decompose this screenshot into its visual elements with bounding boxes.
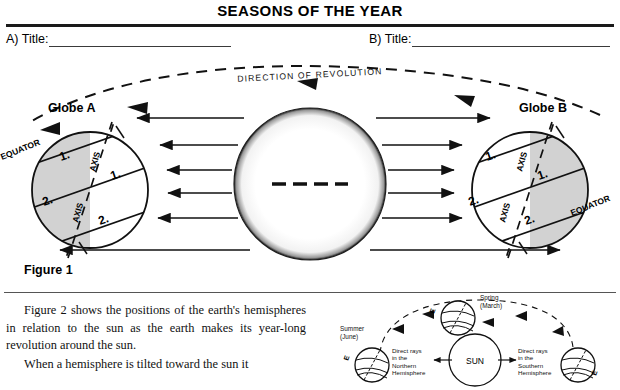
figure-1-svg: 1. 2. 1. 2. AXIS AXIS EQUATOR: [0, 60, 620, 290]
figure-2-globe-summer: E: [342, 348, 389, 382]
globe-a-title: Globe A: [48, 101, 95, 115]
figure-2-summer-e: E: [342, 354, 350, 361]
sun-body: [234, 108, 386, 260]
rays-south-1: Direct rays: [518, 347, 548, 354]
paragraph-2: When a hemisphere is tilted toward the s…: [6, 356, 306, 374]
figure-2-season-summer: Summer (June): [340, 325, 364, 340]
title-b-blank[interactable]: [412, 33, 610, 47]
spring-line-2: (March): [480, 302, 502, 309]
figure-2-season-spring: Spring (March): [480, 294, 502, 309]
title-field-b[interactable]: B) Title:: [369, 32, 610, 47]
globe-b-title: Globe B: [519, 101, 567, 115]
rays-south-4: Hemisphere: [518, 369, 551, 376]
summer-line-2: (June): [340, 333, 358, 340]
title-field-a[interactable]: A) Title:: [6, 32, 231, 47]
worksheet-page: SEASONS OF THE YEAR A) Title: B) Title:: [0, 0, 620, 390]
rays-north-3: Northern: [392, 362, 416, 369]
figure-1-diagram: 1. 2. 1. 2. AXIS AXIS EQUATOR: [0, 60, 620, 290]
globe-b-axis-label-lower: AXIS: [497, 201, 512, 223]
figure-2-globe-winter: E: [561, 348, 599, 382]
globe-a-equator-label: EQUATOR: [0, 137, 41, 162]
figure-2-rays-southern: Direct rays in the Southern Hemisphere: [518, 347, 551, 376]
title-fields-row: A) Title: B) Title:: [0, 32, 620, 58]
spring-line-1: Spring: [480, 294, 498, 301]
globe-b-label-lit-upper: 1.: [483, 147, 497, 163]
body-text: Figure 2 shows the positions of the eart…: [6, 302, 306, 374]
figure-1-caption: Figure 1: [24, 263, 73, 277]
page-title: SEASONS OF THE YEAR: [0, 2, 620, 19]
figure-2-svg: SUN E E: [330, 292, 620, 390]
paragraph-1: Figure 2 shows the positions of the eart…: [6, 302, 306, 355]
figure-2-spring-e: E: [428, 307, 436, 314]
rays-north-2: in the: [392, 354, 407, 361]
figure-2-diagram: SUN E E: [330, 292, 620, 390]
rays-north-4: Hemisphere: [392, 369, 425, 376]
figure-2-globe-spring: E: [428, 301, 475, 335]
figure-2-arc-arrows: [392, 310, 564, 336]
rays-south-2: in the: [518, 354, 533, 361]
globe-b-axis-label-upper: AXIS: [514, 150, 529, 172]
globe-a: 1. 2. 1. 2. AXIS AXIS EQUATOR: [0, 122, 156, 258]
header-divider: [6, 24, 614, 27]
summer-line-1: Summer: [340, 325, 364, 332]
title-a-label: A) Title:: [6, 32, 48, 47]
title-a-blank[interactable]: [49, 33, 231, 47]
rays-north-1: Direct rays: [392, 347, 422, 354]
figure-2-sun-label: SUN: [466, 356, 484, 366]
figure-2-rays-northern: Direct rays in the Northern Hemisphere: [392, 347, 425, 376]
rays-south-3: Southern: [518, 362, 543, 369]
title-b-label: B) Title:: [369, 32, 411, 47]
globe-b: 1. 2. 1. 2. AXIS AXIS EQUATOR: [466, 122, 611, 258]
